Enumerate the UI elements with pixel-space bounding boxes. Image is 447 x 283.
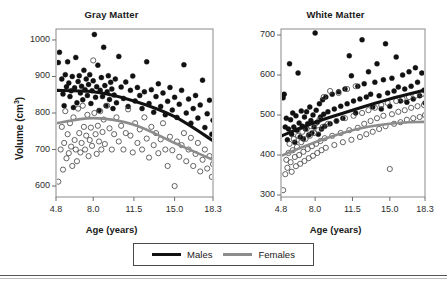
bottom-divider-secondary [0, 278, 447, 279]
y-tick-label: 600 [14, 180, 50, 190]
y-tick-label: 900 [14, 70, 50, 80]
x-tick-label: 11.5 [334, 204, 370, 214]
x-tick-label: 15.0 [372, 204, 408, 214]
x-tick-label: 8.0 [297, 204, 333, 214]
x-axis-label-left: Age (years) [0, 224, 223, 235]
bottom-divider [0, 275, 447, 276]
legend-item-females: Females [223, 249, 294, 260]
panel-title-gray-matter: Gray Matter [0, 9, 223, 20]
legend-item-males: Males [152, 249, 212, 260]
legend-label-males: Males [187, 249, 212, 260]
y-tick-label: 800 [14, 107, 50, 117]
figure-container: Gray Matter White Matter Volume (cm3) Ag… [0, 0, 447, 283]
legend-label-females: Females [258, 249, 294, 260]
x-tick-label: 4.8 [263, 204, 299, 214]
legend-line-males-icon [152, 253, 181, 256]
x-tick-label: 15.0 [157, 204, 193, 214]
x-tick-label: 8.0 [75, 204, 111, 214]
y-tick-label: 700 [239, 29, 275, 39]
y-tick-label: 600 [239, 69, 275, 79]
x-tick-label: 18.3 [195, 204, 231, 214]
y-tick-label: 1000 [14, 34, 50, 44]
y-tick-label: 300 [239, 189, 275, 199]
y-tick-label: 400 [239, 149, 275, 159]
y-tick-label: 500 [239, 109, 275, 119]
x-tick-label: 11.5 [116, 204, 152, 214]
y-tick-label: 700 [14, 144, 50, 154]
x-tick-label: 18.3 [407, 204, 443, 214]
panel-title-white-matter: White Matter [224, 9, 447, 20]
x-tick-label: 4.8 [38, 204, 74, 214]
legend: Males Females [133, 243, 314, 266]
x-axis-label-right: Age (years) [224, 224, 447, 235]
legend-line-females-icon [223, 253, 252, 256]
